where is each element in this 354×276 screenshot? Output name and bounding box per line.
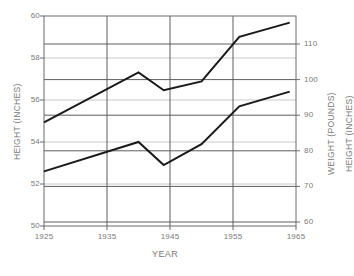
x-axis-title: YEAR xyxy=(152,249,178,259)
y-right-tick-70: 70 xyxy=(304,181,324,190)
y-left-tick-60: 60 xyxy=(22,11,40,20)
x-tick-1945: 1945 xyxy=(153,232,187,241)
year-gridlines xyxy=(107,16,233,226)
y-right-tick-60: 60 xyxy=(304,217,324,226)
y-axis-right-title-height: HEIGHT (INCHES) xyxy=(344,95,354,172)
y-right-tick-90: 90 xyxy=(304,110,324,119)
x-tick-1965: 1965 xyxy=(279,232,313,241)
y-axis-right-title-weight: WEIGHT (POUNDS) xyxy=(326,92,336,175)
x-tick-1925: 1925 xyxy=(27,232,61,241)
y-right-tick-110: 110 xyxy=(304,39,324,48)
y-left-tick-54: 54 xyxy=(22,137,40,146)
y-left-tick-56: 56 xyxy=(22,95,40,104)
y-left-tick-50: 50 xyxy=(22,221,40,230)
y-right-tick-80: 80 xyxy=(304,146,324,155)
x-tick-1935: 1935 xyxy=(90,232,124,241)
y-right-tick-100: 100 xyxy=(304,75,324,84)
series-line-weight xyxy=(44,23,290,123)
y-left-tick-52: 52 xyxy=(22,179,40,188)
x-tick-1955: 1955 xyxy=(216,232,250,241)
data-series-group xyxy=(44,23,290,172)
y-axis-left-title: HEIGHT (INCHES) xyxy=(12,83,22,160)
y-left-tick-58: 58 xyxy=(22,53,40,62)
